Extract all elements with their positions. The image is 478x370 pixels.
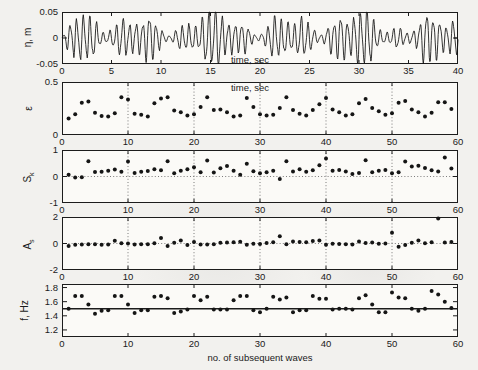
panel2-inner-xlabel: time, sec	[205, 82, 295, 93]
panel2-xtick-label: 30	[245, 137, 275, 146]
panel3-xtick-label: 40	[311, 205, 341, 214]
panel5-xtick-label: 30	[245, 339, 275, 348]
panel5-xtick-label: 0	[47, 339, 77, 348]
panel1-xtick-label: 10	[146, 66, 176, 75]
panel4-ytick-label: 2	[0, 212, 58, 221]
panel3-xtick-label: 60	[443, 205, 473, 214]
panel5-xtick-label: 10	[113, 339, 143, 348]
panel4-ytick-label: 0	[0, 239, 58, 248]
panel5-xtick-label: 40	[311, 339, 341, 348]
panel5-ytick-label: 1.2	[0, 325, 58, 334]
panel4-plot	[62, 217, 458, 270]
panel3-xtick-label: 20	[179, 205, 209, 214]
panel1-xtick-label: 15	[196, 66, 226, 75]
panel2-xtick-label: 60	[443, 137, 473, 146]
panel5-ytick-label: 1.6	[0, 297, 58, 306]
panel4-xtick-label: 0	[47, 272, 77, 281]
panel1-xtick-label: 30	[344, 66, 374, 75]
panel1-xtick-label: 5	[97, 66, 127, 75]
panel4-xtick-label: 10	[113, 272, 143, 281]
panel2-xtick-label: 40	[311, 137, 341, 146]
wave-statistics-figure: η, m -0.0500.05 0510152025303540 time, s…	[0, 0, 478, 370]
panel2-ytick-label: 0.5	[0, 77, 58, 86]
panel2-ylabel: ε	[23, 89, 34, 129]
figure-xlabel: no. of subsequent waves	[160, 352, 360, 363]
panel3-ytick-label: 1	[0, 145, 58, 154]
panel3-plot	[62, 150, 458, 203]
panel4-xtick-label: 30	[245, 272, 275, 281]
panel4-xtick-label: 20	[179, 272, 209, 281]
panel4-xtick-label: 40	[311, 272, 341, 281]
panel1-ytick-label: 0	[0, 33, 58, 42]
panel1-xtick-label: 20	[245, 66, 275, 75]
panel3-xtick-label: 30	[245, 205, 275, 214]
panel3-ytick-label: 0	[0, 172, 58, 181]
panel2-xtick-label: 50	[377, 137, 407, 146]
panel1-xtick-label: 25	[295, 66, 325, 75]
panel2-xtick-label: 20	[179, 137, 209, 146]
panel5-ytick-label: 1.4	[0, 311, 58, 320]
panel4-xtick-label: 60	[443, 272, 473, 281]
panel1-ytick-label: 0.05	[0, 7, 58, 16]
panel5-xtick-label: 20	[179, 339, 209, 348]
panel5-xtick-label: 50	[377, 339, 407, 348]
panel5-xtick-label: 60	[443, 339, 473, 348]
panel3-xtick-label: 10	[113, 205, 143, 214]
panel1-xtick-label: 35	[394, 66, 424, 75]
panel1-inner-xlabel: time, sec	[205, 54, 295, 65]
panel5-plot	[62, 284, 458, 337]
panel2-xtick-label: 10	[113, 137, 143, 146]
panel1-xtick-label: 0	[47, 66, 77, 75]
panel5-ytick-label: 1.8	[0, 283, 58, 292]
panel4-xtick-label: 50	[377, 272, 407, 281]
panel3-xtick-label: 50	[377, 205, 407, 214]
panel1-xtick-label: 40	[443, 66, 473, 75]
